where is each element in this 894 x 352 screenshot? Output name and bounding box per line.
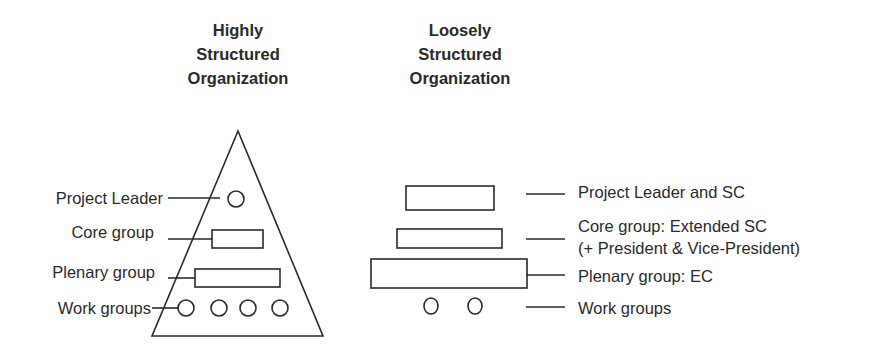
label-project-leader-sc: Project Leader and SC [578,182,745,202]
work-group-node-a [424,298,438,314]
work-group-node-1 [178,300,194,316]
label-core-group-line-2: (+ President & Vice-President) [578,238,800,258]
extended-sc-box [397,229,502,248]
label-work-groups-right: Work groups [578,298,671,318]
label-core-group: Core group [20,222,154,242]
label-project-leader: Project Leader [20,188,163,208]
ec-box [371,259,527,288]
label-plenary-group-ec: Plenary group: EC [578,266,713,286]
work-group-node-4 [272,300,288,316]
project-leader-sc-box [406,186,494,210]
project-leader-node [228,191,244,207]
label-work-groups: Work groups [20,298,151,318]
label-plenary-group: Plenary group [20,262,155,282]
work-group-node-b [468,298,482,314]
plenary-group-box [195,269,280,287]
core-group-box [212,230,263,248]
work-group-node-2 [211,300,227,316]
work-group-node-3 [240,300,256,316]
label-core-group-line-1: Core group: Extended SC [578,216,767,236]
